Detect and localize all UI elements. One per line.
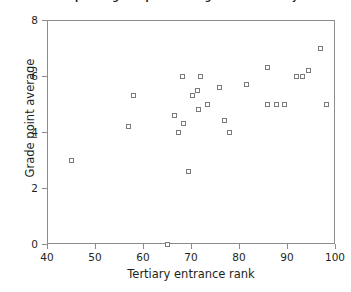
data-point-marker bbox=[176, 130, 181, 135]
data-point-marker bbox=[180, 74, 185, 79]
data-point-marker bbox=[282, 102, 287, 107]
x-axis-tick bbox=[239, 244, 240, 249]
y-axis-tick bbox=[42, 132, 47, 133]
data-point-marker bbox=[222, 118, 227, 123]
data-point-marker bbox=[300, 74, 305, 79]
x-axis-tick-label: 60 bbox=[123, 252, 163, 263]
data-point-marker bbox=[196, 107, 201, 112]
y-axis-tick bbox=[42, 20, 47, 21]
data-point-marker bbox=[190, 93, 195, 98]
y-axis-tick-label: 0 bbox=[8, 239, 38, 250]
data-point-marker bbox=[274, 102, 279, 107]
data-point-marker bbox=[198, 74, 203, 79]
x-axis-tick bbox=[47, 244, 48, 249]
data-point-marker bbox=[227, 130, 232, 135]
data-point-marker bbox=[306, 68, 311, 73]
data-point-marker bbox=[244, 82, 249, 87]
y-axis-tick bbox=[42, 188, 47, 189]
scatter-plot-figure: Scatter plot of grade point average vers… bbox=[0, 0, 351, 292]
data-point-marker bbox=[126, 124, 131, 129]
y-axis-tick bbox=[42, 76, 47, 77]
chart-title: Scatter plot of grade point average vers… bbox=[34, 0, 344, 3]
x-axis-tick-label: 50 bbox=[75, 252, 115, 263]
x-axis-tick-label: 90 bbox=[267, 252, 307, 263]
data-point-marker bbox=[318, 46, 323, 51]
data-point-marker bbox=[205, 102, 210, 107]
y-axis-title: Grade point average bbox=[24, 18, 36, 218]
x-axis-tick bbox=[287, 244, 288, 249]
data-point-marker bbox=[69, 158, 74, 163]
data-point-marker bbox=[186, 169, 191, 174]
data-point-marker bbox=[131, 93, 136, 98]
plot-area bbox=[47, 20, 335, 244]
x-axis-tick-label: 80 bbox=[219, 252, 259, 263]
data-point-marker bbox=[217, 85, 222, 90]
data-point-marker bbox=[172, 113, 177, 118]
x-axis-tick-label: 70 bbox=[171, 252, 211, 263]
x-axis-tick bbox=[95, 244, 96, 249]
data-point-marker bbox=[181, 121, 186, 126]
data-point-marker bbox=[165, 242, 170, 247]
x-axis-tick bbox=[335, 244, 336, 249]
x-axis-tick bbox=[143, 244, 144, 249]
data-point-marker bbox=[294, 74, 299, 79]
data-point-marker bbox=[324, 102, 329, 107]
x-axis-tick-label: 40 bbox=[27, 252, 67, 263]
data-point-marker bbox=[265, 102, 270, 107]
data-point-marker bbox=[195, 88, 200, 93]
x-axis-tick bbox=[191, 244, 192, 249]
x-axis-title: Tertiary entrance rank bbox=[47, 268, 335, 280]
x-axis-tick-label: 100 bbox=[315, 252, 351, 263]
data-point-marker bbox=[265, 65, 270, 70]
